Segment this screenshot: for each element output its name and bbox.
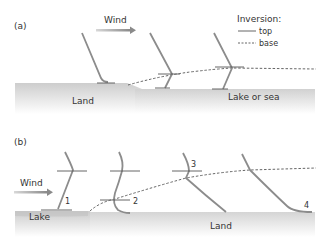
temperature-profile-a2 <box>150 33 172 88</box>
profile-number-3: 3 <box>191 160 196 169</box>
legend: Inversion: top base <box>237 14 281 48</box>
wind-arrow-icon <box>96 27 136 35</box>
wind-label-b: Wind <box>20 178 43 188</box>
temperature-profile-b4 <box>242 154 312 212</box>
land-label-a: Land <box>72 96 94 106</box>
panel-a-label: (a) <box>14 21 27 31</box>
temperature-profile-a1 <box>82 33 108 82</box>
inversion-base-line-a <box>128 68 316 85</box>
inversion-diagram: (a) Wind Land Lake or sea Inversion: top <box>0 0 330 244</box>
water-surface-a <box>135 89 315 114</box>
panel-a: (a) Wind Land Lake or sea Inversion: top <box>14 14 316 114</box>
water-label-a: Lake or sea <box>228 92 280 102</box>
temperature-profile-b2 <box>114 152 130 213</box>
profile-number-2: 2 <box>133 197 138 206</box>
wind-label-a: Wind <box>104 15 127 25</box>
lake-shade-b <box>15 211 88 217</box>
panel-b: (b) Wind Lake Land 1 2 3 4 <box>14 137 316 237</box>
legend-base-label: base <box>259 39 278 48</box>
wind-arrow-icon-b <box>14 189 53 197</box>
land-label-b: Land <box>210 221 232 231</box>
lake-label-b: Lake <box>29 212 50 222</box>
profile-number-1: 1 <box>65 197 70 206</box>
inversion-base-line-b <box>90 168 316 211</box>
legend-title: Inversion: <box>237 14 281 24</box>
temperature-profile-a3 <box>214 33 232 89</box>
profile-number-4: 4 <box>304 201 309 210</box>
panel-b-label: (b) <box>14 137 27 147</box>
legend-top-label: top <box>259 27 272 36</box>
temperature-profile-b3 <box>183 153 226 212</box>
